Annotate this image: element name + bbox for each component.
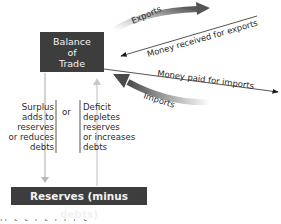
clipped-caption-glyphs: ll t t l t l l f t xyxy=(0,219,160,223)
money-received-label: Money received for exports xyxy=(146,18,259,59)
balance-line-3: Trade xyxy=(40,58,104,69)
exports-arrow xyxy=(114,2,210,30)
exports-label: Exports xyxy=(130,4,163,26)
surplus-line-5: debts xyxy=(0,142,54,152)
surplus-line-3: reserves xyxy=(0,122,54,132)
deficit-text: Deficit depletes reserves or increases d… xyxy=(83,102,135,152)
reserves-box: Reserves (minus debts) xyxy=(11,187,147,205)
surplus-text: Surplus adds to reserves or reduces debt… xyxy=(0,102,54,152)
balance-of-trade-box: Balance of Trade xyxy=(40,32,104,72)
surplus-line-1: Surplus xyxy=(0,102,54,112)
money-paid-label: Money paid for imports xyxy=(157,68,255,91)
deficit-line-2: depletes xyxy=(83,112,135,122)
surplus-line-2: adds to xyxy=(0,112,54,122)
or-connector: or xyxy=(62,107,71,117)
surplus-line-4: or reduces xyxy=(0,132,54,142)
deficit-line-5: debts xyxy=(83,142,135,152)
deficit-line-4: or increases xyxy=(83,132,135,142)
deficit-line-1: Deficit xyxy=(83,102,135,112)
balance-line-2: of xyxy=(40,47,104,58)
deficit-line-3: reserves xyxy=(83,122,135,132)
clipped-caption: ll t t l t l l f t xyxy=(0,219,160,224)
balance-line-1: Balance xyxy=(40,36,104,47)
